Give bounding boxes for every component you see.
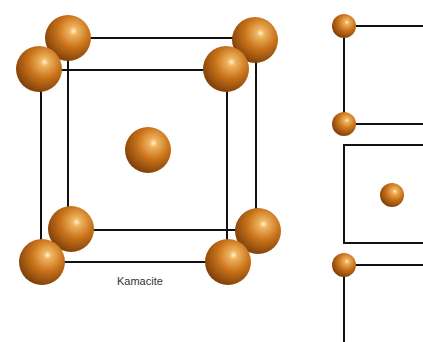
- atom-front-top-left: [16, 46, 62, 92]
- kamacite-diagram: [0, 0, 423, 342]
- diagram-caption: Kamacite: [117, 275, 177, 287]
- atoms: [16, 14, 404, 285]
- atom-side-middle: [332, 112, 356, 136]
- atom-body-center: [125, 127, 171, 173]
- atom-side-bottom: [332, 253, 356, 277]
- atom-front-bottom-left: [19, 239, 65, 285]
- atom-side-top: [332, 14, 356, 38]
- atom-front-bottom-right: [205, 239, 251, 285]
- atom-side-center: [380, 183, 404, 207]
- atom-front-top-right: [203, 46, 249, 92]
